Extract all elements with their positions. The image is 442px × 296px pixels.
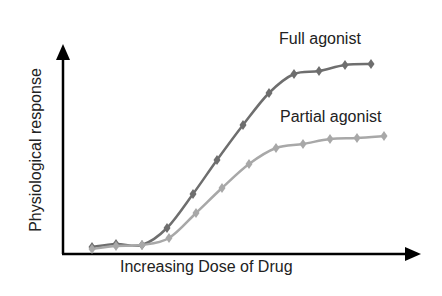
diamond-marker-icon — [354, 133, 361, 143]
y-axis-arrow-icon — [56, 44, 70, 60]
x-axis-label: Increasing Dose of Drug — [120, 258, 293, 276]
series-line — [92, 64, 371, 247]
series-partial-agonist — [89, 131, 388, 254]
diamond-marker-icon — [381, 131, 388, 141]
diamond-marker-icon — [316, 66, 323, 76]
diamond-marker-icon — [291, 69, 298, 79]
dose-response-chart — [0, 0, 442, 296]
x-axis-arrow-icon — [405, 247, 421, 261]
series-line — [92, 136, 384, 249]
diamond-marker-icon — [139, 240, 146, 250]
y-axis-label: Physiological response — [27, 68, 45, 232]
axes — [56, 44, 421, 261]
diamond-marker-icon — [300, 139, 307, 149]
diamond-marker-icon — [342, 60, 349, 70]
series-full-agonist — [89, 59, 375, 252]
full-agonist-label: Full agonist — [279, 30, 361, 48]
partial-agonist-label: Partial agonist — [280, 108, 381, 126]
diamond-marker-icon — [246, 159, 253, 169]
diamond-marker-icon — [368, 59, 375, 69]
diamond-marker-icon — [327, 134, 334, 144]
diamond-marker-icon — [166, 233, 173, 243]
diamond-marker-icon — [273, 143, 280, 153]
